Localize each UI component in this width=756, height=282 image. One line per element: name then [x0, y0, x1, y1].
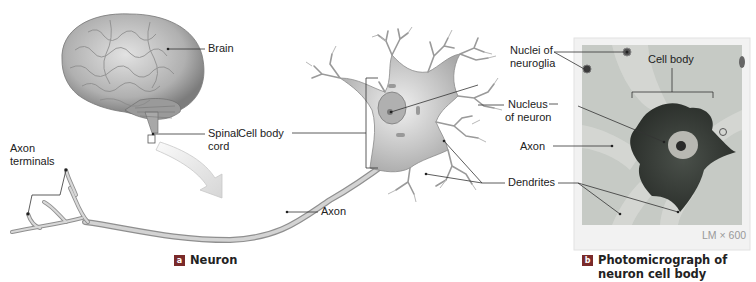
- label-nuclei-neuroglia-line2: neuroglia: [510, 57, 555, 70]
- label-cell-body-a: Cell body: [238, 127, 284, 140]
- label-nucleus-line1: Nucleus: [508, 98, 548, 111]
- label-spinal-cord-line1: Spinal: [208, 127, 239, 140]
- badge-b: b: [582, 255, 593, 266]
- label-axon-b: Axon: [520, 140, 545, 153]
- label-axon-terminals-line2: terminals: [10, 155, 55, 168]
- caption-a: aNeuron: [174, 253, 237, 267]
- caption-b-line1: Photomicrograph of: [598, 253, 727, 267]
- badge-a: a: [174, 255, 185, 266]
- label-axon-a: Axon: [321, 205, 346, 218]
- photomicrograph: [574, 38, 750, 250]
- label-spinal-cord-line2: cord: [208, 140, 229, 153]
- brain-illustration: [62, 14, 204, 143]
- caption-a-text: Neuron: [190, 253, 237, 267]
- magnification-label: LM × 600: [702, 229, 746, 241]
- label-nucleus-line2: of neuron: [505, 111, 551, 124]
- label-nuclei-neuroglia-line1: Nuclei of: [510, 44, 553, 57]
- label-cell-body-b: Cell body: [648, 53, 694, 66]
- caption-b: bPhotomicrograph of: [582, 253, 727, 267]
- caption-b-line2: neuron cell body: [598, 267, 706, 281]
- label-dendrites: Dendrites: [508, 176, 555, 189]
- label-brain: Brain: [208, 42, 234, 55]
- neuron-diagram: [0, 0, 756, 282]
- label-axon-terminals-line1: Axon: [10, 142, 35, 155]
